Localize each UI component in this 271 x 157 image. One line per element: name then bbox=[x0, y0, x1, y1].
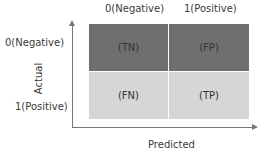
col-header-negative: 0(Negative) bbox=[105, 3, 164, 14]
cell-true-negative: (TN) bbox=[89, 24, 168, 71]
cell-false-negative: (FN) bbox=[89, 72, 168, 119]
row-header-negative: 0(Negative) bbox=[5, 37, 64, 48]
y-axis bbox=[72, 24, 73, 128]
cell-false-positive: (FP) bbox=[169, 24, 249, 71]
y-axis-label: Actual bbox=[33, 63, 44, 94]
y-axis-arrow-icon bbox=[69, 20, 75, 26]
col-header-positive: 1(Positive) bbox=[184, 3, 237, 14]
cell-true-positive: (TP) bbox=[169, 72, 249, 119]
x-axis-label: Predicted bbox=[148, 139, 195, 150]
x-axis-arrow-icon bbox=[252, 124, 258, 130]
row-header-positive: 1(Positive) bbox=[15, 101, 68, 112]
x-axis bbox=[72, 127, 254, 128]
